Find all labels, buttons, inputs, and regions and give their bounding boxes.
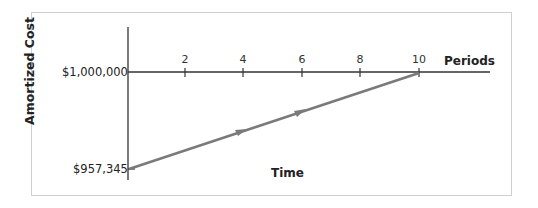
x-unit-label: Periods — [444, 54, 495, 68]
direction-arrow-icon — [235, 129, 247, 136]
x-tick-label: 2 — [182, 53, 189, 66]
y-tick-label-top: $1,000,000 — [62, 65, 128, 79]
y-axis-title: Amortized Cost — [22, 17, 37, 125]
chart-plot — [0, 0, 538, 208]
x-tick-label: 8 — [357, 53, 364, 66]
amortized-cost-line — [129, 73, 419, 169]
x-tick-label: 4 — [240, 53, 247, 66]
x-tick-label: 6 — [299, 53, 306, 66]
direction-arrow-icon — [294, 109, 306, 117]
x-tick-label: 10 — [412, 53, 426, 66]
x-axis-title: Time — [271, 166, 304, 180]
y-tick-label-bottom: $957,345 — [73, 162, 128, 176]
